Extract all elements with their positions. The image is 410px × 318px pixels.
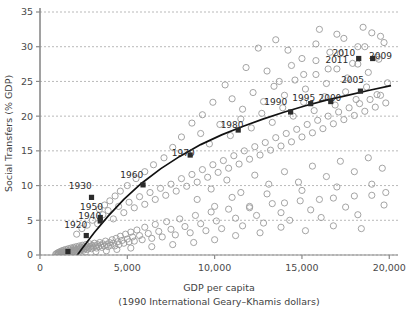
data-point <box>351 112 357 118</box>
year-annotation: 1940 <box>78 211 101 221</box>
data-point <box>215 169 221 175</box>
data-point <box>150 162 156 168</box>
data-point <box>318 214 324 220</box>
data-point <box>330 195 336 201</box>
x-axis-subtitle: (1990 International Geary–Khamis dollars… <box>118 296 319 307</box>
data-point <box>128 245 134 251</box>
data-point <box>271 83 277 89</box>
year-annotation: 1960 <box>120 170 143 180</box>
data-point <box>210 162 216 168</box>
data-point <box>232 215 238 221</box>
data-point <box>323 80 329 86</box>
data-point <box>273 37 279 43</box>
data-point <box>346 105 352 111</box>
data-point <box>224 177 230 183</box>
data-point <box>358 226 364 232</box>
data-point <box>278 210 284 216</box>
data-point <box>112 193 118 199</box>
data-point <box>362 108 368 114</box>
data-point <box>227 132 233 138</box>
year-annotation: 1995 <box>292 93 315 103</box>
year-annotation: 1980 <box>221 120 244 130</box>
data-point <box>184 183 190 189</box>
data-point <box>309 130 315 136</box>
data-point <box>198 221 204 227</box>
y-tick-label: 20 <box>21 111 33 122</box>
year-annotation: 2000 <box>318 93 341 103</box>
data-point <box>107 198 113 204</box>
data-point <box>383 189 389 195</box>
data-point <box>205 174 211 180</box>
x-tick-label: 20,000 <box>373 262 406 273</box>
data-point <box>320 126 326 132</box>
data-point <box>295 179 301 185</box>
data-point <box>299 134 305 140</box>
data-point <box>330 121 336 127</box>
data-point <box>208 186 214 192</box>
data-point <box>246 156 252 162</box>
data-point <box>253 212 259 218</box>
data-point <box>288 62 294 68</box>
data-point <box>229 194 235 200</box>
highlight-point <box>84 233 89 238</box>
data-point <box>381 202 387 208</box>
data-point <box>152 221 158 227</box>
data-point <box>302 86 308 92</box>
data-point <box>182 223 188 229</box>
data-point <box>383 100 389 106</box>
data-point <box>273 135 279 141</box>
chart-svg: 1920194019501930196019701980199019952000… <box>0 0 410 318</box>
data-point <box>309 163 315 169</box>
data-point <box>353 96 359 102</box>
data-point <box>325 66 331 72</box>
data-point <box>231 153 237 159</box>
year-annotation: 2005 <box>341 75 364 85</box>
data-point <box>315 117 321 123</box>
data-point <box>336 109 342 115</box>
data-point <box>266 181 272 187</box>
data-point <box>252 172 258 178</box>
data-point <box>308 207 314 213</box>
data-point <box>239 223 245 229</box>
data-point <box>159 234 165 240</box>
data-point <box>299 187 305 193</box>
data-point <box>313 41 319 47</box>
data-point <box>259 110 265 116</box>
data-point <box>117 188 123 194</box>
data-point <box>252 144 258 150</box>
data-point <box>170 241 176 247</box>
x-axis-title: GDP per capita <box>183 282 255 293</box>
data-point <box>149 235 155 241</box>
data-point <box>304 121 310 127</box>
data-point <box>213 218 219 224</box>
data-point <box>239 106 245 112</box>
data-point <box>334 184 340 190</box>
data-point <box>299 55 305 61</box>
data-point <box>292 77 298 83</box>
data-point <box>369 30 375 36</box>
data-point <box>302 228 308 234</box>
data-point <box>365 69 371 75</box>
data-point <box>356 101 362 107</box>
y-tick-label: 30 <box>21 41 33 52</box>
highlight-point <box>140 182 145 187</box>
data-point <box>192 212 198 218</box>
data-point <box>330 223 336 229</box>
data-point <box>126 199 132 205</box>
data-point <box>260 220 266 226</box>
data-point <box>337 158 343 164</box>
data-point <box>285 47 291 53</box>
data-point <box>355 212 361 218</box>
data-point <box>178 134 184 140</box>
data-point <box>149 244 155 250</box>
data-point <box>177 216 183 222</box>
data-point <box>351 193 357 199</box>
data-point <box>374 92 380 98</box>
data-point <box>142 224 148 230</box>
data-point <box>281 169 287 175</box>
data-point <box>341 35 347 41</box>
data-point <box>121 210 127 216</box>
y-tick-label: 15 <box>21 145 33 156</box>
data-point <box>262 139 268 145</box>
x-tick-label: 10,000 <box>198 262 231 273</box>
